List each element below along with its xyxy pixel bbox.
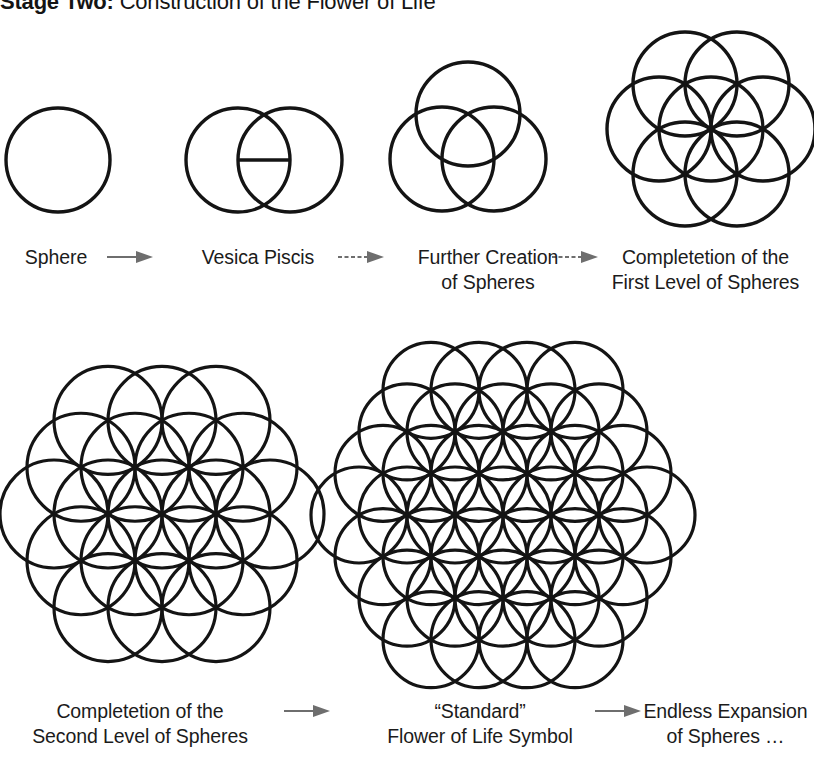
- caption-sphere-line1: Sphere: [25, 246, 87, 268]
- figure-flower-of-life: [333, 345, 673, 685]
- caption-further-line1: Further Creation: [418, 246, 558, 268]
- arrow-icon-second-level-to-standard: [283, 702, 331, 720]
- caption-first-level: Completetion of the First Level of Spher…: [600, 245, 811, 295]
- figure-nineteen-spheres: [0, 352, 324, 676]
- figure-three-spheres: [390, 62, 590, 228]
- caption-sphere: Sphere: [0, 245, 112, 270]
- caption-standard-line2: Flower of Life Symbol: [355, 724, 605, 749]
- caption-endless-expansion: Endless Expansion of Spheres …: [640, 699, 811, 749]
- caption-endless-line2: of Spheres …: [640, 724, 811, 749]
- caption-first-level-line2: First Level of Spheres: [600, 270, 811, 295]
- caption-vesica-piscis: Vesica Piscis: [168, 245, 348, 270]
- page-title: Stage Two: Construction of the Flower of…: [0, 0, 811, 17]
- caption-second-level-line1: Completetion of the: [56, 700, 223, 722]
- caption-standard-flower: “Standard” Flower of Life Symbol: [355, 699, 605, 749]
- figure-seed-of-life: [608, 26, 814, 232]
- page-title-stage: Stage Two:: [0, 0, 114, 14]
- caption-vesica-line1: Vesica Piscis: [202, 246, 315, 268]
- page-title-subject: Construction of the Flower of Life: [114, 0, 436, 14]
- caption-further-line2: of Spheres: [390, 270, 586, 295]
- arrow-icon-sphere-to-vesica: [106, 248, 154, 266]
- caption-further-creation: Further Creation of Spheres: [390, 245, 586, 295]
- caption-first-level-line1: Completetion of the: [622, 246, 789, 268]
- figure-single-sphere: [0, 100, 120, 220]
- figure-vesica-piscis: [180, 100, 360, 220]
- caption-standard-line1: “Standard”: [434, 700, 525, 722]
- caption-endless-line1: Endless Expansion: [643, 700, 807, 722]
- caption-second-level-line2: Second Level of Spheres: [0, 724, 280, 749]
- caption-second-level: Completetion of the Second Level of Sphe…: [0, 699, 280, 749]
